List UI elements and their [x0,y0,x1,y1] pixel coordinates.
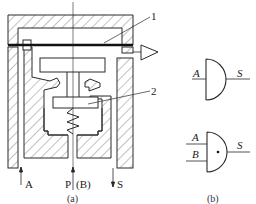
valve-plate [53,97,98,108]
outlet-arrow-icon [141,45,158,60]
gate2-input-b-label: B [192,148,199,160]
caption-a: (a) [67,193,78,204]
port-a-label: A [25,178,33,190]
port-s-label: S [117,178,123,190]
callout-2-label: 2 [151,85,157,97]
housing-right-lower [117,58,133,168]
piston-upper-plate [40,58,105,72]
port-a-arrow-icon [20,167,23,172]
port-s-arrow-icon [112,182,115,187]
caption-b: (b) [207,193,219,204]
and-gate-single [192,59,250,100]
gate2-output-label: S [237,139,243,151]
gate2-input-a-label: A [191,131,199,143]
housing-left-wall [8,47,18,168]
port-b-label: (B) [76,178,91,191]
valve-cross-section [8,2,158,190]
port-p-label: P [65,178,71,190]
callout-1-label: 1 [151,10,157,22]
pneumatic-valve-diagram: 1 2 A P (B) S (a) A S A B S (b) [0,0,256,204]
port-p-arrow-icon [72,167,75,172]
gate1-input-label: A [192,67,200,79]
housing-right-upper [122,47,133,53]
gate-dot-icon [217,151,220,154]
gate1-output-label: S [237,67,243,79]
and-gate-body [206,59,226,100]
housing-right-inner [77,79,111,158]
